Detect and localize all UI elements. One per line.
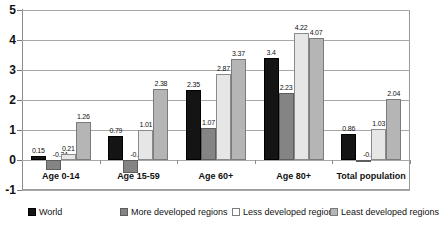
x-tick-2 xyxy=(255,160,256,164)
x-tick-3 xyxy=(332,160,333,164)
y-tick-label-2: 2 xyxy=(0,95,16,105)
legend-swatch-icon-2 xyxy=(232,208,240,216)
bar-value-label-4-3: 2.04 xyxy=(381,90,407,98)
bar-3-1 xyxy=(279,93,294,160)
x-tick-1 xyxy=(177,160,178,164)
bar-1-3 xyxy=(153,89,168,160)
bar-value-label-2-0: 2.35 xyxy=(181,81,207,89)
bar-value-label-3-0: 3.4 xyxy=(258,49,284,57)
bar-4-3 xyxy=(386,99,401,160)
y-tick-label--1: -1 xyxy=(0,185,16,195)
legend-label-1: More developed regions xyxy=(131,207,228,217)
legend-swatch-icon-0 xyxy=(28,208,36,216)
bars-layer: 0.15-0.340.211.260.79-0.421.012.382.351.… xyxy=(22,10,410,190)
y-tick-label-4: 4 xyxy=(0,35,16,45)
y-tick-label-1: 1 xyxy=(0,125,16,135)
bar-0-1 xyxy=(46,160,61,170)
bar-0-2 xyxy=(61,154,76,160)
bar-3-3 xyxy=(309,38,324,160)
bar-3-0 xyxy=(264,58,279,160)
legend-label-0: World xyxy=(39,207,62,217)
bar-2-3 xyxy=(231,59,246,160)
bar-value-label-1-3: 2.38 xyxy=(148,80,174,88)
bar-4-0 xyxy=(341,134,356,160)
legend-item-3[interactable]: Least developed regions xyxy=(330,205,439,219)
legend-label-3: Least developed regions xyxy=(341,207,439,217)
legend-item-2[interactable]: Less developed regions xyxy=(232,205,338,219)
x-tick-4 xyxy=(410,160,411,164)
y-tick-label-5: 5 xyxy=(0,5,16,15)
bar-4-1 xyxy=(356,160,371,162)
legend-item-1[interactable]: More developed regions xyxy=(120,205,228,219)
y-tick--1 xyxy=(17,190,22,191)
legend-swatch-icon-1 xyxy=(120,208,128,216)
chart-legend: WorldMore developed regionsLess develope… xyxy=(0,205,418,225)
legend-label-2: Less developed regions xyxy=(243,207,338,217)
bar-value-label-3-3: 4.07 xyxy=(303,29,329,37)
bar-value-label-4-0: 0.86 xyxy=(336,125,362,133)
bar-2-1 xyxy=(201,128,216,160)
gridline--1 xyxy=(22,190,410,191)
category-label-4: Total population xyxy=(332,171,410,182)
x-tick-0 xyxy=(100,160,101,164)
bar-3-2 xyxy=(294,33,309,160)
bar-value-label-0-3: 1.26 xyxy=(70,113,96,121)
y-tick-label-3: 3 xyxy=(0,65,16,75)
y-tick-label-0: 0 xyxy=(0,155,16,165)
category-label-0: Age 0-14 xyxy=(22,171,100,182)
bar-1-0 xyxy=(108,136,123,160)
bar-value-label-2-3: 3.37 xyxy=(226,50,252,58)
bar-0-3 xyxy=(76,122,91,160)
bar-2-2 xyxy=(216,74,231,160)
bar-1-2 xyxy=(138,130,153,160)
category-label-3: Age 80+ xyxy=(255,171,333,182)
bar-value-label-1-0: 0.79 xyxy=(103,127,129,135)
bar-4-2 xyxy=(371,129,386,160)
legend-item-0[interactable]: World xyxy=(28,205,62,219)
bar-0-0 xyxy=(31,156,46,161)
category-label-2: Age 60+ xyxy=(177,171,255,182)
category-label-1: Age 15-59 xyxy=(100,171,178,182)
legend-swatch-icon-3 xyxy=(330,208,338,216)
